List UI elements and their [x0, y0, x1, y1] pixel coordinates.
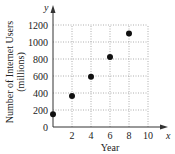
x-axis-title: Year: [101, 142, 120, 153]
y-axis-title: Number of Internet Users (millions): [4, 21, 27, 124]
y-tick-label: 600: [33, 71, 48, 82]
y-axis-title-line-2: (millions): [15, 52, 27, 91]
x-tick-labels: 246810: [70, 130, 154, 141]
data-point: [50, 111, 56, 117]
y-tick-label: 400: [33, 88, 48, 99]
y-tick-label: 1200: [28, 20, 48, 31]
x-tick-label: 2: [70, 130, 75, 141]
x-tick-label: 10: [143, 130, 153, 141]
data-point: [88, 74, 94, 80]
scatter-chart: 020040060080010001200 246810 y x Year Nu…: [0, 0, 175, 154]
x-tick-label: 4: [89, 130, 94, 141]
y-axis-symbol: y: [43, 2, 49, 13]
x-tick-label: 8: [127, 130, 132, 141]
x-axis-arrow-icon: [160, 125, 168, 130]
y-axis-title-line-1: Number of Internet Users: [4, 21, 15, 124]
data-point: [126, 31, 132, 37]
y-tick-label: 1000: [28, 37, 48, 48]
y-tick-label: 800: [33, 54, 48, 65]
y-tick-label: 200: [33, 105, 48, 116]
axes: [51, 5, 169, 130]
grid-lines: [53, 25, 148, 127]
data-point: [69, 93, 75, 99]
y-tick-labels: 020040060080010001200: [28, 20, 48, 133]
y-tick-label: 0: [43, 122, 48, 133]
y-axis-arrow-icon: [51, 5, 56, 13]
x-axis-symbol: x: [165, 130, 171, 141]
x-tick-label: 6: [108, 130, 113, 141]
data-point: [107, 54, 113, 60]
